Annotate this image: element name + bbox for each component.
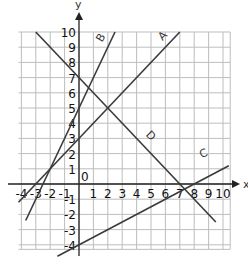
line-label-d: D — [143, 128, 158, 143]
y-axis-label: y — [75, 0, 82, 11]
x-tick-label: 3 — [118, 187, 126, 201]
grid — [19, 32, 231, 249]
x-tick-label: -2 — [44, 187, 56, 201]
y-tick-label: 6 — [68, 87, 76, 101]
x-tick-label: 1 — [90, 187, 98, 201]
tick-labels: -4-3-2-11234567891010987654321-1-2-3-40 — [15, 26, 230, 253]
line-label-b: B — [93, 31, 108, 44]
y-tick-label: 1 — [68, 163, 76, 177]
y-tick-label: 10 — [61, 26, 76, 40]
y-tick-label: 5 — [68, 102, 76, 116]
x-axis-label: x — [243, 178, 248, 191]
y-tick-label: -2 — [64, 208, 76, 222]
line-graph: xy -4-3-2-11234567891010987654321-1-2-3-… — [0, 0, 248, 264]
y-tick-label: -3 — [64, 224, 76, 238]
origin-label: 0 — [81, 170, 89, 184]
y-tick-label: -4 — [64, 239, 76, 253]
line-label-a: A — [155, 28, 170, 43]
x-tick-label: 9 — [205, 187, 213, 201]
y-tick-label: 2 — [68, 148, 76, 162]
line-a — [19, 32, 180, 202]
y-tick-label: -1 — [64, 193, 76, 207]
x-axis-arrow-icon — [232, 180, 240, 188]
x-tick-label: 4 — [133, 187, 141, 201]
y-tick-label: 9 — [68, 41, 76, 55]
x-tick-label: 10 — [215, 187, 230, 201]
y-tick-label: 3 — [68, 132, 76, 146]
y-axis-arrow-icon — [75, 12, 83, 20]
x-tick-label: 7 — [176, 187, 184, 201]
x-tick-label: 2 — [104, 187, 112, 201]
x-tick-label: 5 — [147, 187, 155, 201]
